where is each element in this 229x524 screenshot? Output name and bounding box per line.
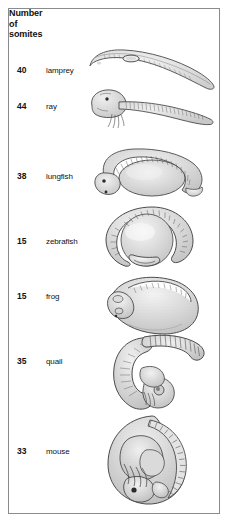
frog-embryo-illustration <box>98 272 208 338</box>
organism-name: ray <box>46 102 57 111</box>
lungfish-embryo-illustration <box>86 146 218 206</box>
organism-name: frog <box>46 292 59 301</box>
header-line-1: Number <box>9 8 79 19</box>
somite-count: 40 <box>17 65 26 75</box>
somite-count: 35 <box>17 356 26 366</box>
organism-name: quail <box>46 357 62 366</box>
ray-embryo-illustration <box>86 88 218 136</box>
mouse-embryo-illustration <box>100 412 210 508</box>
header-line-2: of <box>9 19 79 30</box>
somite-count: 38 <box>17 171 26 181</box>
zebrafish-embryo-illustration <box>100 205 204 269</box>
somite-count: 44 <box>17 101 26 111</box>
organism-name: lungfish <box>46 172 73 181</box>
organism-name: mouse <box>46 447 70 456</box>
quail-embryo-illustration <box>102 330 210 414</box>
column-header-somites: Number of somites <box>9 8 79 40</box>
header-line-3: somites <box>9 29 79 40</box>
lamprey-embryo-illustration <box>86 44 218 92</box>
somite-count: 15 <box>17 236 26 246</box>
somite-count: 15 <box>17 291 26 301</box>
organism-name: lamprey <box>46 66 74 75</box>
somite-count-figure: Number of somites 40 lamprey <box>0 0 229 524</box>
somite-count: 33 <box>17 446 26 456</box>
organism-name: zebrafish <box>46 237 78 246</box>
